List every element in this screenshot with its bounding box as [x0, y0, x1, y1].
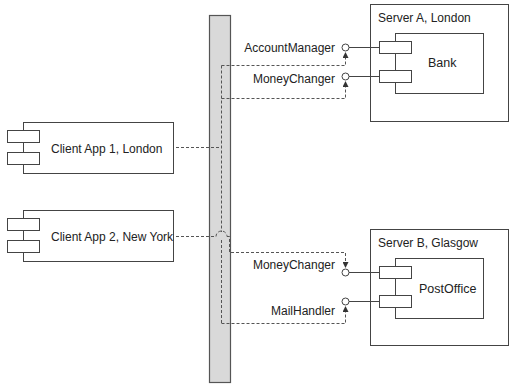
interface-label-moneychanger-a: MoneyChanger — [253, 72, 335, 86]
port-icon — [8, 131, 40, 143]
interface-label-mailhandler: MailHandler — [271, 304, 335, 318]
interface-label-moneychanger-b: MoneyChanger — [253, 258, 335, 272]
bank-component: Bank — [380, 34, 484, 94]
client-app-2-label: Client App 2, New York — [51, 230, 174, 244]
postoffice-component: PostOffice — [380, 259, 484, 319]
interface-lollipop-icon — [342, 269, 349, 276]
interface-lollipop-icon — [342, 44, 349, 51]
bank-label: Bank — [428, 56, 457, 70]
server-a-label: Server A, London — [378, 11, 471, 25]
client-app-1-label: Client App 1, London — [51, 142, 162, 156]
client-app-1-component: Client App 1, London — [8, 123, 174, 174]
port-icon — [380, 296, 412, 308]
client-app-2-component: Client App 2, New York — [8, 211, 175, 262]
middleware-bus — [210, 16, 231, 383]
port-icon — [380, 267, 412, 279]
port-icon — [380, 42, 412, 54]
dependency-connectors — [176, 55, 346, 324]
port-icon — [380, 71, 412, 83]
server-b-node: Server B, Glasgow PostOffice — [342, 230, 509, 346]
server-a-node: Server A, London Bank — [342, 5, 509, 122]
port-icon — [8, 219, 40, 231]
postoffice-label: PostOffice — [419, 282, 476, 296]
port-icon — [8, 241, 40, 253]
deployment-diagram: Server A, London Bank Server B, Glasgow … — [0, 0, 517, 389]
interface-label-accountmanager: AccountManager — [244, 41, 335, 55]
port-icon — [8, 153, 40, 165]
interface-lollipop-icon — [342, 73, 349, 80]
interface-lollipop-icon — [342, 298, 349, 305]
server-b-label: Server B, Glasgow — [378, 236, 478, 250]
